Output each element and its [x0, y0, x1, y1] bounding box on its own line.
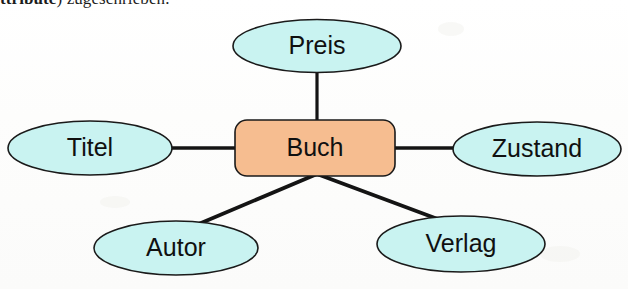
attribute-label-verlag: Verlag — [426, 229, 497, 257]
attribute-node-preis[interactable]: Preis — [233, 20, 401, 73]
attribute-node-verlag[interactable]: Verlag — [377, 216, 545, 272]
entity-node-buch[interactable]: Buch — [235, 120, 395, 176]
attribute-label-autor: Autor — [146, 233, 206, 261]
attribute-label-preis: Preis — [289, 31, 346, 59]
attribute-node-autor[interactable]: Autor — [94, 221, 258, 275]
edge-buch-verlag — [317, 174, 443, 221]
attribute-node-titel[interactable]: Titel — [8, 121, 172, 175]
attribute-node-zustand[interactable]: Zustand — [453, 122, 621, 176]
attribute-label-zustand: Zustand — [492, 134, 582, 162]
edge-buch-autor — [194, 174, 317, 226]
er-diagram: Preis Titel Zustand Autor Verlag Buch — [0, 0, 628, 289]
diagram-page: ttribute) zugeschrieben. Preis Titel Zus… — [0, 0, 628, 289]
attribute-label-titel: Titel — [67, 133, 113, 161]
entity-label-buch: Buch — [287, 133, 344, 161]
